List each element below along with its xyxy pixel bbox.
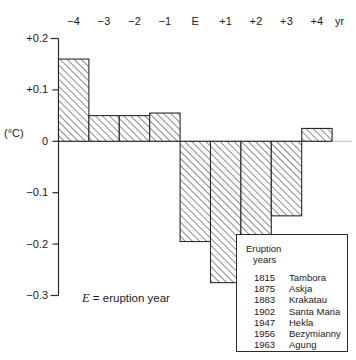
legend-row: 1947Hekla <box>237 317 347 328</box>
legend-volcano-name: Bezymianny <box>289 328 341 339</box>
legend-row: 1815Tambora <box>237 272 347 283</box>
legend-title-line1: Eruption <box>246 243 281 254</box>
bar-+2 <box>241 141 271 236</box>
legend-year: 1815 <box>237 272 289 283</box>
legend-row: 1902Santa Maria <box>237 306 347 317</box>
bar-+4 <box>302 128 332 141</box>
bar-+3 <box>271 141 301 216</box>
legend-row-list: 1815Tambora1875Askja1883Krakatau1902Sant… <box>237 272 347 350</box>
legend-row: 1956Bezymianny <box>237 328 347 339</box>
bar--3 <box>89 116 119 142</box>
bar--4 <box>59 59 89 141</box>
legend-row: 1875Askja <box>237 283 347 294</box>
legend-year: 1963 <box>237 339 289 350</box>
legend-volcano-name: Askja <box>289 283 312 294</box>
caption-text: = eruption year <box>93 292 170 304</box>
legend-row: 1883Krakatau <box>237 294 347 305</box>
legend-year: 1883 <box>237 294 289 305</box>
legend-volcano-name: Santa Maria <box>289 306 340 317</box>
legend-year: 1947 <box>237 317 289 328</box>
axis-lines <box>51 39 59 296</box>
legend-row: 1963Agung <box>237 339 347 350</box>
bar--2 <box>119 116 149 142</box>
legend-year: 1902 <box>237 306 289 317</box>
legend-title-line2: years <box>253 254 276 265</box>
legend-year: 1956 <box>237 328 289 339</box>
legend-box: Eruption years 1815Tambora1875Askja1883K… <box>236 234 348 352</box>
legend-volcano-name: Agung <box>289 339 316 350</box>
legend-volcano-name: Hekla <box>289 317 313 328</box>
bar--1 <box>150 113 180 141</box>
bar-E <box>180 141 210 241</box>
legend-year: 1875 <box>237 283 289 294</box>
legend-volcano-name: Krakatau <box>289 294 327 305</box>
eruption-temperature-chart: −4 −3 −2 −1 E +1 +2 +3 +4 yr +0.2 +0.1 0… <box>0 0 356 360</box>
legend-volcano-name: Tambora <box>289 272 326 283</box>
caption-symbol: E <box>82 291 90 305</box>
eruption-year-caption: E = eruption year <box>82 291 170 305</box>
